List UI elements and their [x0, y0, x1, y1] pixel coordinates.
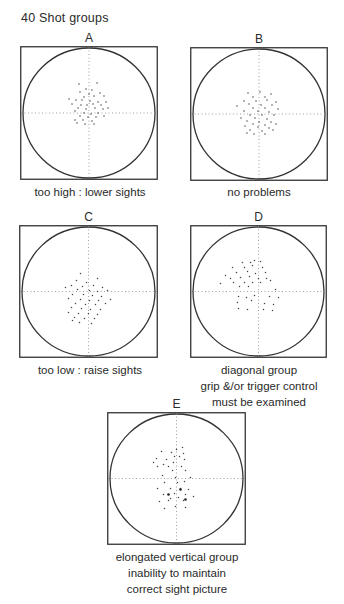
target-frame [20, 226, 158, 358]
shot-hole [157, 466, 159, 468]
shot-hole [188, 489, 190, 491]
shot-hole [172, 470, 174, 472]
shot-hole [174, 456, 176, 458]
shot-hole [71, 285, 73, 287]
shot-hole [82, 286, 84, 288]
shot-hole [90, 309, 92, 311]
shot-hole [273, 304, 275, 306]
target-diagram [107, 412, 246, 545]
shot-hole [179, 488, 182, 491]
shot-hole [259, 91, 261, 93]
panel-caption-c: too low : raise sights [4, 362, 176, 378]
shot-hole [110, 299, 112, 301]
target-panel-d: D [190, 225, 327, 358]
panel-caption-e: elongated vertical groupinability to mai… [100, 549, 254, 597]
shot-hole [252, 265, 254, 267]
panel-letter: B [190, 32, 328, 46]
shot-hole [178, 497, 180, 499]
shot-hole [102, 108, 104, 110]
shot-hole [88, 93, 90, 95]
shot-hole [80, 299, 82, 301]
shot-hole [183, 453, 185, 455]
shot-hole [264, 96, 266, 98]
shot-hole [270, 93, 272, 95]
shot-hole [264, 303, 266, 305]
shot-hole [79, 115, 81, 117]
shot-hole [86, 104, 88, 106]
shot-hole [271, 104, 273, 106]
shot-hole [183, 500, 185, 502]
shot-hole [232, 267, 234, 269]
shot-hole [171, 452, 173, 454]
shot-hole [244, 267, 246, 269]
shot-hole [88, 313, 90, 315]
shot-hole [185, 507, 187, 509]
shot-hole [255, 100, 257, 102]
shot-hole [251, 300, 253, 302]
shot-hole [100, 104, 102, 106]
shot-hole [258, 278, 260, 280]
shot-hole [257, 126, 259, 128]
shot-hole [97, 112, 99, 114]
shot-hole [97, 291, 99, 293]
shot-hole [266, 278, 268, 280]
shot-hole [75, 303, 77, 305]
shot-hole [89, 290, 91, 292]
shot-hole [99, 92, 101, 94]
shot-hole [90, 113, 92, 115]
shot-hole [246, 297, 248, 299]
shot-hole [247, 309, 249, 311]
shot-hole [164, 482, 166, 484]
shot-hole [164, 508, 166, 510]
caption-line: inability to maintain [100, 565, 254, 581]
shot-hole [266, 118, 268, 120]
caption-line: correct sight picture [100, 581, 254, 597]
shot-hole [87, 116, 89, 118]
shot-hole [173, 462, 175, 464]
shot-hole [270, 121, 272, 123]
shot-hole [170, 488, 172, 490]
shot-hole [74, 119, 76, 121]
shot-hole [85, 304, 87, 306]
shot-hole [264, 124, 266, 126]
shot-hole [93, 285, 95, 287]
shot-hole [193, 496, 195, 498]
shot-hole [83, 294, 85, 296]
caption-line: too high : lower sights [4, 184, 176, 200]
target-diagram [19, 225, 158, 358]
shot-hole [249, 276, 251, 278]
shot-hole [272, 310, 274, 312]
shot-hole [181, 466, 183, 468]
shot-hole [269, 296, 271, 298]
shot-hole [249, 129, 251, 131]
target-panel-e: E [107, 412, 246, 545]
shot-hole [81, 308, 83, 310]
shot-hole [260, 104, 262, 106]
shot-hole [253, 133, 255, 135]
shot-hole [167, 493, 170, 496]
shot-hole [275, 101, 277, 103]
shot-hole [92, 103, 94, 105]
shot-hole [239, 286, 241, 288]
shot-hole [68, 312, 70, 314]
shot-hole [262, 267, 264, 269]
shot-hole [254, 260, 256, 262]
shot-hole [225, 275, 227, 277]
target-diagram [20, 46, 158, 180]
target-diagram [190, 225, 327, 358]
shot-hole [97, 314, 99, 316]
shot-hole [96, 82, 98, 84]
shot-hole [72, 294, 74, 296]
shot-hole [184, 481, 186, 483]
shot-hole [261, 114, 263, 116]
shot-hole [95, 304, 97, 306]
shot-hole [268, 127, 270, 129]
shot-hole [272, 129, 274, 131]
shot-hole [85, 88, 87, 90]
shot-hole [175, 506, 177, 508]
shot-hole [79, 91, 81, 93]
shot-hole [76, 122, 78, 124]
shot-hole [91, 120, 93, 122]
shot-hole [91, 89, 93, 91]
shot-hole [89, 100, 91, 102]
